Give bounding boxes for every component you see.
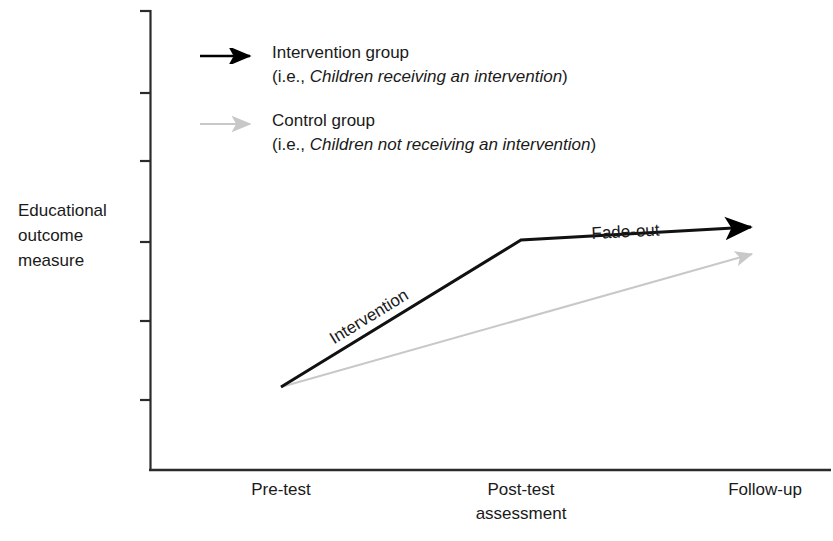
y-axis-title-line-2: outcome xyxy=(18,223,146,248)
legend-sublabel-intervention-group: (i.e., Children receiving an interventio… xyxy=(272,65,720,89)
legend-arrow-icon-intervention xyxy=(200,48,262,64)
legend-entry-control-group: Control group (i.e., Children not receiv… xyxy=(200,109,720,157)
y-axis-title-line-1: Educational xyxy=(18,198,146,223)
y-axis-title-line-3: measure xyxy=(18,248,146,273)
legend-arrow-icon-control xyxy=(200,116,262,132)
chart-figure: Educational outcome measure Pre-test Pos… xyxy=(0,0,833,541)
x-tick-text: Post-test xyxy=(476,478,567,502)
legend-sublabel-suffix: ) xyxy=(562,67,568,86)
x-axis-tick-label-post-test: Post-test assessment xyxy=(476,478,567,526)
legend-sublabel-prefix: (i.e., xyxy=(272,135,310,154)
x-axis-tick-label-follow-up: Follow-up xyxy=(728,478,802,502)
x-tick-text: Follow-up xyxy=(728,478,802,502)
series-line-intervention-group xyxy=(281,227,751,387)
legend-sublabel-suffix: ) xyxy=(590,135,596,154)
legend-label-control-group: Control group xyxy=(272,109,720,133)
annotation-fade-out: Fade-out xyxy=(591,221,660,243)
y-axis-title: Educational outcome measure xyxy=(18,198,146,273)
legend-label-block-intervention: Intervention group (i.e., Children recei… xyxy=(272,41,720,89)
legend-sublabel-italic: Children not receiving an intervention xyxy=(310,135,591,154)
x-tick-text: assessment xyxy=(476,502,567,526)
legend-sublabel-control-group: (i.e., Children not receiving an interve… xyxy=(272,133,720,157)
legend-sublabel-prefix: (i.e., xyxy=(272,67,310,86)
legend-label-intervention-group: Intervention group xyxy=(272,41,720,65)
chart-legend: Intervention group (i.e., Children recei… xyxy=(200,41,720,177)
legend-sublabel-italic: Children receiving an intervention xyxy=(310,67,562,86)
x-tick-text: Pre-test xyxy=(251,478,311,502)
legend-entry-intervention-group: Intervention group (i.e., Children recei… xyxy=(200,41,720,89)
x-axis-tick-label-pre-test: Pre-test xyxy=(251,478,311,502)
legend-label-block-control: Control group (i.e., Children not receiv… xyxy=(272,109,720,157)
